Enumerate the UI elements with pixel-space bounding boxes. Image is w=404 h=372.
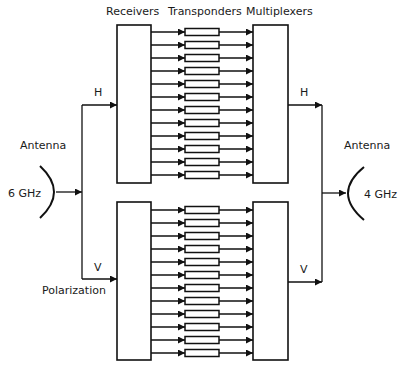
transponder-channel xyxy=(151,42,253,49)
right-antenna-frequency: 4 GHz xyxy=(364,188,397,201)
transponder-block xyxy=(185,55,219,62)
transponder-channel xyxy=(151,337,253,344)
transponder-block xyxy=(185,337,219,344)
transponder-channel xyxy=(151,259,253,266)
transponder-block xyxy=(185,233,219,240)
transponder-channel xyxy=(151,246,253,253)
transponder-channel xyxy=(151,94,253,101)
multiplexer-block-v xyxy=(253,202,288,360)
transponder-block xyxy=(185,146,219,153)
transponder-channel xyxy=(151,233,253,240)
transponder-block xyxy=(185,172,219,179)
transponder-channel xyxy=(151,272,253,279)
transponder-block xyxy=(185,159,219,166)
transponder-block xyxy=(185,81,219,88)
transponder-block xyxy=(185,42,219,49)
transponder-channel xyxy=(151,29,253,36)
transponder-block xyxy=(185,107,219,114)
transponder-block xyxy=(185,272,219,279)
polarization-label: Polarization xyxy=(42,284,106,297)
right-antenna-label: Antenna xyxy=(344,139,390,152)
transponder-block xyxy=(185,285,219,292)
right-v-label: V xyxy=(300,263,308,276)
left-antenna-dish-icon xyxy=(40,166,54,218)
right-h-label: H xyxy=(300,86,308,99)
transponder-channel xyxy=(151,68,253,75)
transponder-block xyxy=(185,68,219,75)
transponder-channel xyxy=(151,311,253,318)
left-antenna-frequency: 6 GHz xyxy=(8,187,41,200)
transponder-channel xyxy=(151,133,253,140)
multiplexers-header: Multiplexers xyxy=(246,5,313,18)
transponder-block xyxy=(185,133,219,140)
transponder-block xyxy=(185,246,219,253)
left-antenna-label: Antenna xyxy=(20,139,66,152)
transponder-block xyxy=(185,298,219,305)
transponder-block xyxy=(185,324,219,331)
transponder-channel xyxy=(151,207,253,214)
receiver-block-h xyxy=(117,25,151,183)
right-antenna-dish-icon xyxy=(348,167,364,220)
transponder-channel xyxy=(151,146,253,153)
left-h-label: H xyxy=(94,86,102,99)
receivers-header: Receivers xyxy=(106,5,160,18)
transponder-channel xyxy=(151,298,253,305)
receiver-block-v xyxy=(117,202,151,360)
transponder-block xyxy=(185,94,219,101)
transponder-channel xyxy=(151,159,253,166)
multiplexer-block-h xyxy=(253,25,288,183)
transponder-block xyxy=(185,350,219,357)
transponder-block xyxy=(185,220,219,227)
transponder-block xyxy=(185,207,219,214)
satellite-transponder-diagram: Receivers Transponders Multiplexers Ante… xyxy=(0,0,404,372)
left-v-label: V xyxy=(94,261,102,274)
transponder-channels-v xyxy=(151,207,253,357)
transponder-channels-h xyxy=(151,29,253,179)
transponder-block xyxy=(185,120,219,127)
transponder-channel xyxy=(151,172,253,179)
transponder-channel xyxy=(151,120,253,127)
transponder-channel xyxy=(151,324,253,331)
transponder-channel xyxy=(151,81,253,88)
transponder-block xyxy=(185,259,219,266)
transponder-block xyxy=(185,29,219,36)
transponders-header: Transponders xyxy=(167,5,242,18)
transponder-channel xyxy=(151,220,253,227)
transponder-channel xyxy=(151,285,253,292)
transponder-channel xyxy=(151,107,253,114)
transponder-channel xyxy=(151,55,253,62)
transponder-block xyxy=(185,311,219,318)
transponder-channel xyxy=(151,350,253,357)
